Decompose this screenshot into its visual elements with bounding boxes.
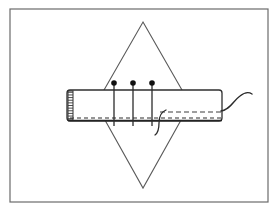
pin-2-head: [130, 80, 136, 86]
sewing-diagram-svg: [0, 0, 279, 212]
waistband-strip: [67, 90, 222, 121]
pin-3-head: [149, 80, 155, 86]
illustration-canvas: Sewing illustration: waistband pinned to…: [0, 0, 279, 212]
pin-1-head: [111, 80, 117, 86]
